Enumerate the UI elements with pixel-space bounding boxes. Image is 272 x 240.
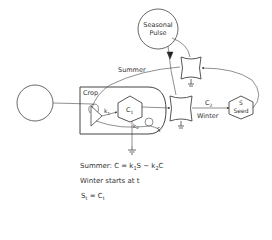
heat-sink-mid [178,121,184,128]
source-flow-line [53,103,93,104]
energy-source-circle [17,85,53,121]
heat-sink-top [188,79,194,86]
seasonal-pulse-label-1: Seasonal [143,21,173,29]
heat-sink-icon [128,146,136,154]
seed-label: Seed [234,107,249,114]
seed-s-label: S [239,99,243,106]
switch-mid-icon [170,96,192,121]
crop-feedback-curve [96,121,160,132]
switch-top-icon [181,57,201,79]
crop-label: Crop [83,89,98,97]
production-triangle-icon [91,106,102,126]
k2-label: k2 [133,123,139,130]
equation-seed: St = Ct [81,192,105,201]
equation-summer: Summer: C = k1S − k2C [80,162,164,171]
pulse-triangle-icon [167,52,173,59]
c2-label: C2 [205,99,213,108]
c1-label: C1 [126,106,134,115]
summer-label: Summer [118,66,146,74]
equation-winter: Winter starts at t [80,177,139,185]
interaction-circle [145,118,153,126]
winter-label: Winter [197,112,219,120]
pulse-to-switch-top [172,38,190,57]
seasonal-pulse-label-2: Pulse [149,29,166,37]
